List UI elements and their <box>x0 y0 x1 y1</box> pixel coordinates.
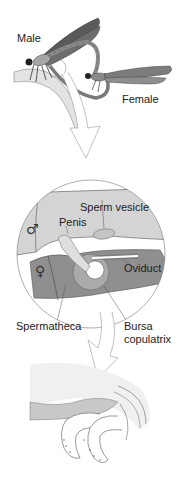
female-symbol-icon: ♀ <box>35 264 45 278</box>
label-spermatheca: Spermatheca <box>16 320 81 332</box>
diagram-canvas <box>0 0 182 491</box>
label-oviduct: Oviduct <box>124 262 161 274</box>
female-legs <box>92 80 100 92</box>
label-sperm-vesicle: Sperm vesicle <box>80 201 149 213</box>
female-head <box>85 73 91 79</box>
male-symbol-icon: ♂ <box>26 222 39 236</box>
male-head <box>26 59 33 66</box>
label-penis: Penis <box>59 216 87 228</box>
label-female: Female <box>122 93 159 105</box>
label-bursa-line2: copulatrix <box>124 333 171 345</box>
female-wing-lower <box>104 77 166 84</box>
penis-tip-detail <box>30 363 150 463</box>
label-bursa-line1: Bursa <box>124 320 153 332</box>
label-male: Male <box>17 32 41 44</box>
